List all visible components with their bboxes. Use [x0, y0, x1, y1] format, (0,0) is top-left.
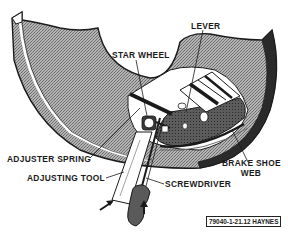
label-web: WEB: [222, 169, 280, 177]
label-lever: LEVER: [191, 22, 220, 30]
label-adjuster-spring: ADJUSTER SPRING: [7, 155, 91, 163]
label-screwdriver: SCREWDRIVER: [165, 180, 231, 188]
label-star-wheel: STAR WHEEL: [112, 51, 170, 59]
leader-screwdriver: [146, 178, 164, 184]
label-adjusting-tool: ADJUSTING TOOL: [27, 174, 105, 182]
brake-adjuster-diagram: LEVER STAR WHEEL ADJUSTER SPRING ADJUSTI…: [0, 0, 288, 238]
figure-reference: 79040-1-21.12 HAYNES: [206, 216, 281, 227]
diagram-illustration: [0, 0, 288, 238]
label-brake-shoe: BRAKE SHOE: [222, 159, 280, 167]
